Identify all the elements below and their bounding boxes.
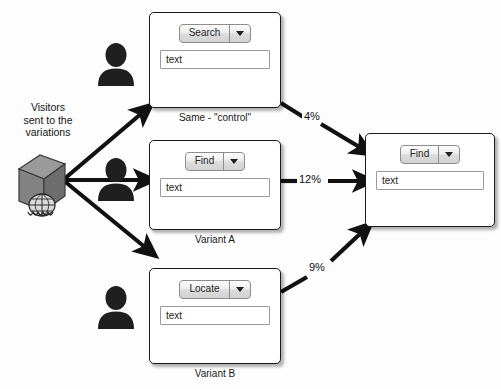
page-box-variant-b[interactable]: Locate text [149,268,281,364]
arrow-control-to-goal-b [321,124,361,148]
dropdown-row-variant-a: Find [160,150,270,171]
chevron-down-icon[interactable] [439,146,459,163]
dropdown-row-goal: Find [376,143,484,164]
dropdown-control[interactable]: Search [179,24,252,43]
search-input-value-variant-b: text [166,310,182,321]
conversion-rate-variant-a: 12% [297,173,323,185]
arrow-variant-b-to-goal-a [281,277,307,292]
visitors-caption-line-1: Visitors [4,101,92,114]
dropdown-row-variant-b: Locate [160,278,270,299]
visitor-avatar-variant-b [96,285,136,329]
page-box-control[interactable]: Search text [149,12,281,108]
visitor-avatar-control [96,42,136,86]
chevron-down-icon[interactable] [224,153,244,170]
caption-control: Same - "control" [149,112,281,123]
visitors-caption-line-3: variations [4,126,92,139]
chevron-down-icon[interactable] [230,25,250,42]
dropdown-label-variant-a: Find [186,153,223,170]
page-inner-variant-a: Find text [150,141,280,229]
search-input-variant-a[interactable]: text [160,178,270,197]
search-input-variant-b[interactable]: text [160,306,270,325]
server-icon [16,153,68,219]
dropdown-goal[interactable]: Find [400,145,460,164]
diagram-canvas: Visitors sent to the variations Search [0,0,501,389]
page-inner-variant-b: Locate text [150,269,280,363]
search-input-control[interactable]: text [160,50,270,69]
dropdown-label-control: Search [180,25,230,42]
caret-shape [445,152,453,157]
search-input-value-control: text [166,54,182,65]
dropdown-row-control: Search [160,22,270,43]
search-input-value-goal: text [382,175,398,186]
visitor-avatar-variant-a [96,157,136,201]
page-inner-control: Search text [150,13,280,107]
visitors-caption-line-2: sent to the [4,114,92,127]
conversion-rate-variant-b: 9% [307,261,327,273]
page-box-goal[interactable]: Find text [365,133,495,227]
dropdown-label-goal: Find [401,146,438,163]
caption-variant-b: Variant B [149,368,281,379]
arrow-variant-b-to-goal-b [331,232,362,261]
caret-shape [236,31,244,36]
search-input-value-variant-a: text [166,182,182,193]
search-input-goal[interactable]: text [376,171,484,190]
visitors-caption: Visitors sent to the variations [4,101,92,139]
chevron-down-icon[interactable] [230,281,250,298]
caption-variant-a: Variant A [149,234,281,245]
conversion-rate-control: 4% [302,110,322,122]
page-box-variant-a[interactable]: Find text [149,140,281,230]
page-inner-goal: Find text [366,134,494,226]
dropdown-variant-b[interactable]: Locate [179,280,250,299]
dropdown-variant-a[interactable]: Find [185,152,245,171]
caret-shape [230,159,238,164]
dropdown-label-variant-b: Locate [180,281,228,298]
caret-shape [236,287,244,292]
